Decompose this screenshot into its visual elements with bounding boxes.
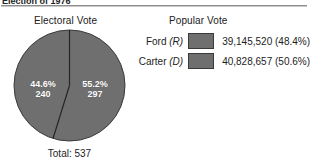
electoral-pie-chart: 44.6% 240 55.2% 297 [13, 29, 126, 142]
popular-vote-heading: Popular Vote [169, 15, 227, 26]
top-divider-shadow [1, 6, 307, 7]
legend-row-carter: Carter (D) 40,828,657 (50.6%) [130, 51, 310, 71]
legend-swatch-ford [188, 33, 214, 49]
legend-candidate-ford: Ford [146, 36, 167, 47]
legend-party-carter: (D) [169, 56, 183, 67]
pie-slice-right-value: 297 [71, 89, 119, 99]
legend-value-ford: 39,145,520 (48.4%) [214, 36, 310, 47]
legend-candidate-carter: Carter [139, 56, 167, 67]
pie-slice-left-percent: 44.6% [19, 79, 67, 89]
electoral-total-label: Total: 537 [13, 148, 126, 159]
pie-slice-label-right: 55.2% 297 [71, 79, 119, 99]
legend-row-ford: Ford (R) 39,145,520 (48.4%) [130, 31, 310, 51]
pie-slice-right-percent: 55.2% [71, 79, 119, 89]
popular-vote-legend: Ford (R) 39,145,520 (48.4%) Carter (D) 4… [130, 31, 310, 71]
pie-slice-label-left: 44.6% 240 [19, 79, 67, 99]
legend-party-ford: (R) [169, 36, 183, 47]
legend-label-carter: Carter (D) [130, 56, 188, 67]
figure-caption: Election of 1976 [2, 0, 152, 4]
legend-swatch-carter [188, 53, 214, 69]
election-figure: Election of 1976 Electoral Vote Popular … [0, 0, 310, 168]
electoral-vote-heading: Electoral Vote [34, 15, 97, 26]
legend-label-ford: Ford (R) [130, 36, 188, 47]
pie-slice-left-value: 240 [19, 89, 67, 99]
figure-caption-text: Election of 1976 [2, 0, 152, 4]
legend-value-carter: 40,828,657 (50.6%) [214, 56, 310, 67]
